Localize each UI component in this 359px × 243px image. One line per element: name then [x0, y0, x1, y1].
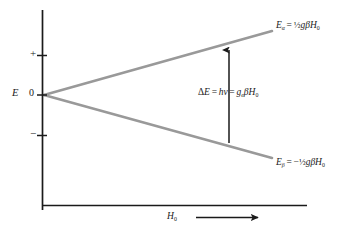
x-axis-label-symbol: H [167, 211, 174, 221]
energy-label-beta-equals: = [285, 157, 294, 167]
transition-equals-1: = [210, 87, 219, 97]
field-subscript: 0 [255, 92, 258, 98]
energy-label-alpha-expression: gβH [300, 20, 316, 30]
energy-label-alpha-equals: = [285, 20, 294, 30]
y-axis-zero-label: 0 [29, 88, 34, 98]
x-axis-label: H0 [167, 212, 177, 223]
transition-energy-equation: ΔE=hν=geβH0 [198, 88, 258, 99]
energy-label-beta-expression-subscript: 0 [322, 162, 325, 168]
energy-label-beta-expression: gβH [306, 157, 322, 167]
y-axis-label: E [12, 88, 18, 99]
energy-label-alpha-expression-subscript: 0 [317, 25, 320, 31]
x-axis-label-subscript: 0 [174, 216, 177, 222]
zeeman-splitting-figure: Eα=½gβH0 Eβ=−½gβH0 ΔE=hν=geβH0 E 0 + − H… [0, 0, 359, 243]
energy-label-beta-fraction: ½ [299, 157, 306, 167]
y-axis-negative-label: − [30, 128, 36, 139]
energy-level-line-beta [44, 95, 272, 158]
energy-label-beta: Eβ=−½gβH0 [276, 158, 325, 169]
energy-label-alpha: Eα=½gβH0 [276, 21, 320, 32]
y-axis-positive-label: + [30, 48, 36, 59]
diagram-canvas [0, 0, 359, 243]
energy-level-line-alpha [44, 31, 272, 95]
